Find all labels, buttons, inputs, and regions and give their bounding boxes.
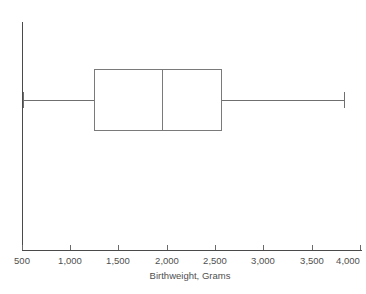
iqr-box (95, 70, 222, 131)
x-axis-ticks (23, 245, 361, 250)
box-plot-figure: 500 1,000 1,500 2,000 2,500 3,000 3,500 … (0, 0, 366, 294)
box-plot-canvas: 500 1,000 1,500 2,000 2,500 3,000 3,500 … (0, 0, 366, 294)
x-axis-tick-labels: 500 1,000 1,500 2,000 2,500 3,000 3,500 … (14, 255, 360, 266)
x-axis-title: Birthweight, Grams (150, 270, 231, 281)
x-tick-label: 2,000 (155, 255, 179, 266)
x-tick-label: 3,500 (300, 255, 324, 266)
x-tick-label: 3,000 (251, 255, 275, 266)
x-tick-label: 4,000 (336, 255, 360, 266)
x-tick-label: 1,500 (106, 255, 130, 266)
x-tick-label: 1,000 (58, 255, 82, 266)
x-tick-label: 500 (14, 255, 30, 266)
x-tick-label: 2,500 (203, 255, 227, 266)
